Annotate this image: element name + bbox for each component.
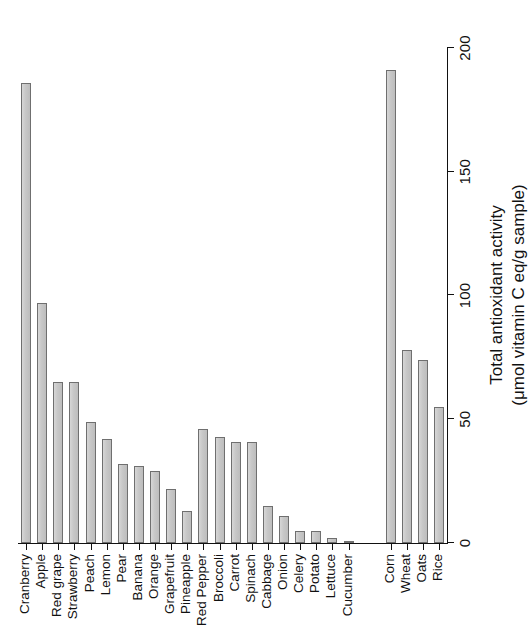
category-tick-17 xyxy=(300,543,301,550)
value-tick-50 xyxy=(447,418,454,419)
bar-pineapple xyxy=(182,511,192,543)
category-tick-24 xyxy=(439,543,440,550)
category-label-lemon: Lemon xyxy=(98,554,113,642)
bar-cabbage xyxy=(263,506,273,543)
category-tick-16 xyxy=(284,543,285,550)
category-label-lettuce: Lettuce xyxy=(323,554,338,642)
category-label-pineapple: Pineapple xyxy=(178,554,193,642)
category-tick-22 xyxy=(407,543,408,550)
bar-wheat xyxy=(402,350,412,543)
category-label-cranberry: Cranberry xyxy=(17,554,32,642)
bar-apple xyxy=(37,303,47,543)
bar-pear xyxy=(118,464,128,543)
category-tick-11 xyxy=(203,543,204,550)
value-tick-0 xyxy=(447,542,454,543)
bar-orange xyxy=(150,471,160,543)
category-label-pear: Pear xyxy=(114,554,129,642)
value-tick-label-100: 100 xyxy=(456,283,473,309)
category-label-peach: Peach xyxy=(82,554,97,642)
bar-potato xyxy=(311,531,321,543)
category-label-corn: Corn xyxy=(382,554,397,642)
category-tick-18 xyxy=(316,543,317,550)
category-label-spinach: Spinach xyxy=(243,554,258,642)
value-tick-100 xyxy=(447,295,454,296)
bar-celery xyxy=(295,531,305,543)
category-tick-9 xyxy=(171,543,172,550)
category-tick-3 xyxy=(74,543,75,550)
bar-onion xyxy=(279,516,289,543)
category-label-orange: Orange xyxy=(146,554,161,642)
bar-cranberry xyxy=(21,83,31,543)
bar-spinach xyxy=(247,442,257,543)
category-label-strawberry: Strawberry xyxy=(65,554,80,642)
bar-rice xyxy=(434,407,444,543)
value-tick-200 xyxy=(447,47,454,48)
category-label-cabbage: Cabbage xyxy=(259,554,274,642)
category-label-red-pepper: Red Pepper xyxy=(194,554,209,642)
bar-corn xyxy=(386,70,396,543)
category-tick-13 xyxy=(236,543,237,550)
category-label-onion: Onion xyxy=(275,554,290,642)
value-tick-label-50: 50 xyxy=(456,411,473,428)
value-tick-label-200: 200 xyxy=(456,35,473,61)
category-tick-0 xyxy=(26,543,27,550)
category-label-rice: Rice xyxy=(430,554,445,642)
category-label-cucumber: Cucumber xyxy=(340,554,355,642)
bar-red-pepper xyxy=(198,429,208,543)
category-tick-5 xyxy=(107,543,108,550)
category-label-wheat: Wheat xyxy=(398,554,413,642)
category-tick-12 xyxy=(220,543,221,550)
bar-red-grape xyxy=(53,382,63,543)
category-tick-14 xyxy=(252,543,253,550)
category-tick-20 xyxy=(349,543,350,550)
category-tick-15 xyxy=(268,543,269,550)
category-tick-21 xyxy=(391,543,392,550)
category-label-apple: Apple xyxy=(33,554,48,642)
value-tick-label-0: 0 xyxy=(456,539,473,548)
category-label-celery: Celery xyxy=(291,554,306,642)
category-label-potato: Potato xyxy=(307,554,322,642)
axis-title: Total antioxidant activity (μmol vitamin… xyxy=(486,47,530,543)
category-tick-7 xyxy=(139,543,140,550)
bar-broccoli xyxy=(215,437,225,543)
category-tick-2 xyxy=(58,543,59,550)
bar-grapefruit xyxy=(166,489,176,543)
category-tick-23 xyxy=(423,543,424,550)
axis-title-line2: (μmol vitamin C eq/g sample) xyxy=(508,47,530,543)
bar-carrot xyxy=(231,442,241,543)
category-tick-19 xyxy=(332,543,333,550)
category-tick-4 xyxy=(91,543,92,550)
category-tick-8 xyxy=(155,543,156,550)
value-tick-label-150: 150 xyxy=(456,159,473,185)
bar-peach xyxy=(86,422,96,543)
bar-oats xyxy=(418,360,428,543)
category-tick-10 xyxy=(187,543,188,550)
bar-banana xyxy=(134,466,144,543)
category-tick-1 xyxy=(42,543,43,550)
category-label-carrot: Carrot xyxy=(227,554,242,642)
axis-title-line1: Total antioxidant activity xyxy=(487,205,506,385)
category-label-red-grape: Red grape xyxy=(49,554,64,642)
category-label-grapefruit: Grapefruit xyxy=(162,554,177,642)
category-label-broccoli: Broccoli xyxy=(211,554,226,642)
category-axis-line xyxy=(18,543,448,544)
bar-lemon xyxy=(102,439,112,543)
category-label-banana: Banana xyxy=(130,554,145,642)
value-tick-150 xyxy=(447,171,454,172)
bar-strawberry xyxy=(69,382,79,543)
category-label-oats: Oats xyxy=(414,554,429,642)
category-tick-6 xyxy=(123,543,124,550)
